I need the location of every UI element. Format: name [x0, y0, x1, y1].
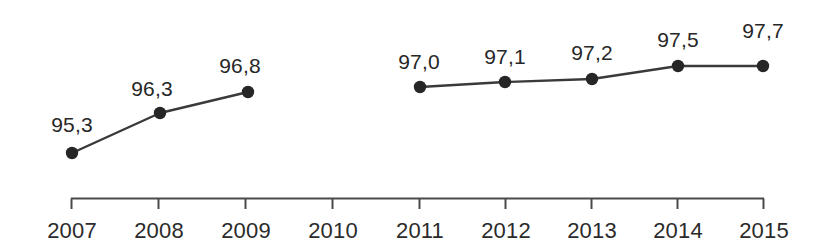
- x-axis-label-2010: 2010: [308, 220, 358, 242]
- data-label-2013: 97,2: [571, 42, 613, 63]
- data-point-2015: [757, 60, 769, 72]
- x-axis-label-2011: 2011: [396, 220, 444, 242]
- data-point-2014: [672, 60, 684, 72]
- data-label-2008: 96,3: [131, 78, 173, 99]
- data-label-2014: 97,5: [657, 29, 699, 50]
- x-axis-label-2015: 2015: [739, 220, 789, 242]
- x-axis-label-2013: 2013: [567, 220, 617, 242]
- series-line-segment-1: [72, 92, 248, 153]
- x-axis-label-2008: 2008: [134, 220, 184, 242]
- data-point-2009: [242, 86, 254, 98]
- data-label-2007: 95,3: [51, 114, 93, 135]
- data-point-2011: [414, 81, 426, 93]
- data-label-2015: 97,7: [742, 20, 784, 41]
- data-point-2012: [499, 76, 511, 88]
- x-axis: [71, 199, 764, 210]
- x-axis-label-2014: 2014: [653, 220, 703, 242]
- data-point-2013: [586, 73, 598, 85]
- x-axis-label-2009: 2009: [221, 220, 271, 242]
- data-label-2009: 96,8: [219, 55, 261, 76]
- line-chart: 95,3 96,3 96,8 97,0 97,1 97,2 97,5 97,7 …: [0, 0, 813, 247]
- data-point-2008: [154, 107, 166, 119]
- data-label-2011: 97,0: [398, 51, 440, 72]
- x-axis-label-2007: 2007: [47, 220, 97, 242]
- data-point-2007: [66, 147, 78, 159]
- data-label-2012: 97,1: [484, 46, 526, 67]
- x-axis-label-2012: 2012: [481, 220, 531, 242]
